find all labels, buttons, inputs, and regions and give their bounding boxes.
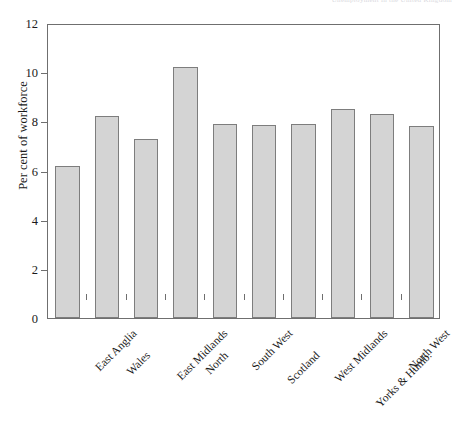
x-tick-mark — [165, 294, 166, 300]
bar — [134, 139, 158, 318]
x-tick-mark — [401, 294, 402, 300]
y-tick-label: 10 — [26, 65, 39, 81]
x-tick-mark — [244, 294, 245, 300]
bar — [370, 114, 394, 318]
x-tick-mark — [283, 294, 284, 300]
x-tick-mark — [361, 294, 362, 300]
x-tick-mark — [86, 294, 87, 300]
bar — [409, 126, 433, 318]
x-axis-label: North West — [406, 327, 451, 372]
x-axis-label: Wales — [124, 349, 152, 377]
bar — [331, 109, 355, 318]
y-tick-label: 12 — [26, 16, 39, 32]
y-tick-label: 2 — [32, 262, 38, 278]
bar — [95, 116, 119, 318]
x-tick-mark — [204, 294, 205, 300]
bar — [55, 166, 79, 318]
bar — [291, 124, 315, 318]
y-tick-label: 8 — [32, 114, 38, 130]
x-axis-label: West Midlands — [333, 327, 390, 384]
y-tick-label: 0 — [32, 311, 38, 327]
bar — [173, 67, 197, 318]
y-tick-label: 6 — [32, 164, 38, 180]
bar — [252, 125, 276, 318]
x-axis-label: South West — [249, 327, 294, 372]
page-running-header: Unemployment in the United Kingdom — [332, 0, 452, 3]
x-tick-mark — [126, 294, 127, 300]
x-axis-label: Scotland — [285, 349, 322, 386]
bar — [213, 124, 237, 318]
y-tick-label: 4 — [32, 213, 38, 229]
plot-area — [47, 24, 440, 319]
x-tick-mark — [322, 294, 323, 300]
bar-chart-figure: Unemployment in the United Kingdom Per c… — [0, 0, 460, 448]
